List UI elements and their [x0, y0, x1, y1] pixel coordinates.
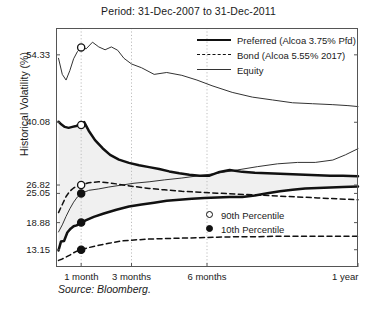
x-axis-tick-label: 3 months	[112, 271, 151, 282]
filled-circle-icon	[78, 246, 85, 253]
chart-figure: Period: 31-Dec-2007 to 31-Dec-2011 Histo…	[0, 0, 377, 310]
y-axis-tick-label: 25.05	[4, 187, 50, 198]
y-axis-tick-label: 54.33	[4, 49, 50, 60]
percentile-key-label: 90th Percentile	[221, 210, 284, 221]
open-circle-icon	[78, 44, 85, 51]
percentile-key-10th: 10th Percentile	[204, 222, 284, 236]
x-axis-tick-label: 6 months	[188, 271, 227, 282]
y-axis-tick-label: 40.08	[4, 116, 50, 127]
legend-line-solid-thick-icon	[196, 34, 232, 46]
open-circle-icon	[78, 181, 85, 188]
legend: Preferred (Alcoa 3.75% Pfd) Bond (Alcoa …	[196, 31, 356, 80]
y-axis-tick-label: 18.88	[4, 217, 50, 228]
filled-circle-icon	[78, 219, 85, 226]
legend-label: Equity	[237, 65, 263, 76]
percentile-key: 90th Percentile 10th Percentile	[204, 208, 284, 236]
y-axis-tick-label: 13.15	[4, 244, 50, 255]
open-circle-icon	[78, 121, 85, 128]
legend-label: Preferred (Alcoa 3.75% Pfd)	[237, 35, 356, 46]
filled-circle-icon	[78, 190, 85, 197]
open-circle-icon	[204, 209, 217, 222]
x-axis-tick-label: 1 month	[64, 271, 98, 282]
legend-item-equity: Equity	[196, 63, 356, 77]
source-note: Source: Bloomberg.	[58, 283, 151, 295]
x-axis-tick-label: 1 year	[332, 271, 358, 282]
legend-label: Bond (Alcoa 5.55% 2017)	[237, 50, 345, 61]
percentile-key-90th: 90th Percentile	[204, 208, 284, 222]
percentile-key-label: 10th Percentile	[221, 224, 284, 235]
legend-item-preferred: Preferred (Alcoa 3.75% Pfd)	[196, 33, 356, 47]
legend-line-dashed-icon	[196, 49, 232, 61]
legend-line-solid-thin-icon	[196, 64, 232, 76]
legend-item-bond: Bond (Alcoa 5.55% 2017)	[196, 48, 356, 62]
filled-circle-icon	[204, 223, 217, 236]
series-line	[59, 236, 358, 260]
